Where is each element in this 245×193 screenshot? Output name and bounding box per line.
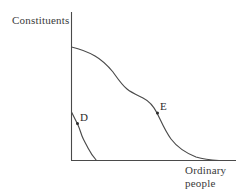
point-marker-e [156,112,159,115]
point-label-e: E [160,101,167,112]
chart-figure: Constituents Ordinary people D E [0,0,245,193]
point-label-d: D [80,112,88,123]
point-marker-d [76,122,79,125]
x-axis-label-line1: Ordinary [185,164,226,176]
x-axis-label: Ordinary people [185,164,243,190]
curve-e [72,47,220,161]
y-axis-label: Constituents [12,14,69,27]
x-axis-label-line2: people [185,177,216,189]
